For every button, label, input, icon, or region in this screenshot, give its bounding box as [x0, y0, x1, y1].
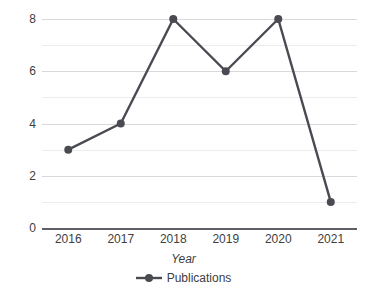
series-line — [68, 19, 331, 202]
data-point-marker[interactable] — [64, 146, 72, 154]
legend-line-marker-icon — [136, 272, 162, 284]
y-axis-tick-label: 4 — [0, 118, 36, 130]
x-axis-tick-label: 2016 — [38, 232, 98, 246]
data-point-marker[interactable] — [169, 15, 177, 23]
chart-legend: Publications — [0, 272, 367, 284]
y-axis-tick-label: 0 — [0, 222, 36, 234]
data-point-marker[interactable] — [222, 67, 230, 75]
legend-label-publications: Publications — [167, 272, 232, 284]
x-axis-title: Year — [0, 252, 367, 266]
data-point-marker[interactable] — [117, 120, 125, 128]
x-axis-tick-label: 2018 — [143, 232, 203, 246]
legend-item-publications[interactable]: Publications — [136, 272, 232, 284]
x-axis-tick-label: 2020 — [248, 232, 308, 246]
data-point-marker[interactable] — [327, 198, 335, 206]
series-publications — [42, 19, 357, 228]
y-axis-tick-labels: 86420 — [0, 19, 36, 228]
x-axis-tick-labels: 201620172018201920202021 — [42, 232, 357, 248]
y-axis-tick-label: 6 — [0, 65, 36, 77]
line-chart-figure: 86420 201620172018201920202021 Year Publ… — [0, 0, 367, 296]
x-axis-tick-label: 2017 — [91, 232, 151, 246]
x-axis-line — [42, 228, 357, 230]
x-axis-tick-label: 2021 — [301, 232, 361, 246]
y-axis-tick-label: 8 — [0, 13, 36, 25]
y-axis-tick-label: 2 — [0, 170, 36, 182]
data-point-marker[interactable] — [274, 15, 282, 23]
x-axis-tick-label: 2019 — [196, 232, 256, 246]
